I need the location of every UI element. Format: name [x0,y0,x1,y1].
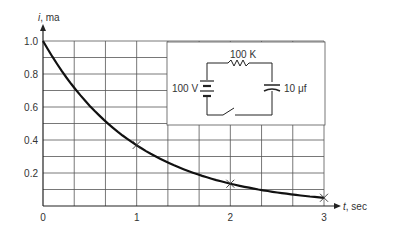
inset-circuit: 100 K 100 V 10 μf [167,42,325,125]
x-tick-label: 2 [228,212,234,223]
y-axis-label: i, ma [38,12,60,23]
x-axis-label: t, sec [343,201,367,212]
y-tick-label: 0.6 [24,102,38,113]
x-tick-label: 0 [40,212,46,223]
y-tick-label: 0.4 [24,135,38,146]
x-tick-label: 1 [134,212,140,223]
x-axis-unit: , sec [346,201,367,212]
y-axis-unit: , ma [40,12,60,23]
y-tick-label: 0.2 [24,168,38,179]
chart: 01230.20.40.60.81.0 100 K 100 V 10 μf [0,0,395,234]
capacitor-label: 10 μf [284,83,307,94]
y-tick-label: 1.0 [24,36,38,47]
y-tick-label: 0.8 [24,69,38,80]
battery-label: 100 V [172,83,198,94]
x-tick-label: 3 [321,212,327,223]
resistor-label: 100 K [230,49,256,60]
